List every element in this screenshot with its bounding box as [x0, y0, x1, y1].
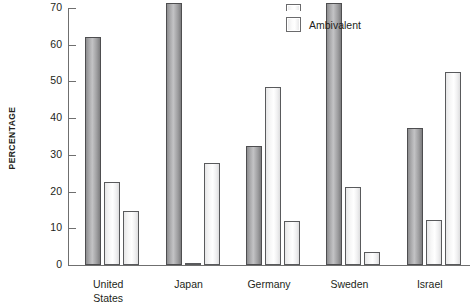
bar [166, 3, 182, 266]
bar [123, 211, 139, 265]
y-tick-label: 50 [34, 75, 62, 86]
x-axis-label: UnitedStates [68, 278, 148, 305]
y-tick-mark [69, 45, 76, 46]
bar [426, 220, 442, 265]
x-axis-label-line: United [68, 278, 148, 292]
bar [185, 263, 201, 265]
y-tick-mark [69, 8, 76, 9]
bar [104, 182, 120, 265]
legend-label: Ambivalent [309, 19, 361, 31]
y-tick-label: 60 [34, 39, 62, 50]
bar [445, 72, 461, 265]
y-tick-mark [69, 155, 76, 156]
x-axis-label-line: States [68, 292, 148, 305]
x-axis-label-line: Japan [148, 278, 228, 292]
x-axis-line [68, 265, 470, 266]
x-axis-label: Sweden [309, 278, 389, 292]
bar [326, 3, 342, 266]
legend-swatch-icon [286, 4, 301, 11]
x-axis-label-line: Israel [390, 278, 470, 292]
y-tick-label: 20 [34, 186, 62, 197]
bar [246, 146, 262, 265]
legend-swatch-icon [286, 17, 301, 32]
y-tick-mark [69, 192, 76, 193]
bar-group [246, 8, 300, 265]
y-tick-label: 40 [34, 112, 62, 123]
bar [284, 221, 300, 265]
bar [407, 128, 423, 265]
bar-group [85, 8, 139, 265]
x-axis-label: Japan [148, 278, 228, 292]
bar [265, 87, 281, 265]
y-axis-title: PERCENTAGE [7, 90, 17, 186]
y-tick-mark [69, 81, 76, 82]
bar [85, 37, 101, 265]
legend: Ambivalent [286, 0, 361, 33]
bar-group [166, 8, 220, 265]
y-tick-mark [69, 228, 76, 229]
legend-item-clipped [286, 0, 361, 16]
bar [204, 163, 220, 265]
bar [364, 252, 380, 265]
x-axis-label: Germany [229, 278, 309, 292]
y-tick-label: 70 [34, 2, 62, 13]
x-axis-label: Israel [390, 278, 470, 292]
bar-group [326, 8, 380, 265]
y-tick-label: 30 [34, 149, 62, 160]
plot-area: 010203040506070 UnitedStatesJapanGermany… [68, 8, 470, 265]
y-tick-mark [69, 118, 76, 119]
bar-group [407, 8, 461, 265]
y-tick-label: 0 [34, 259, 62, 270]
x-axis-label-line: Germany [229, 278, 309, 292]
legend-item-ambivalent: Ambivalent [286, 16, 361, 33]
x-axis-label-line: Sweden [309, 278, 389, 292]
bar [345, 187, 361, 265]
y-tick-mark [69, 265, 76, 266]
y-tick-label: 10 [34, 222, 62, 233]
